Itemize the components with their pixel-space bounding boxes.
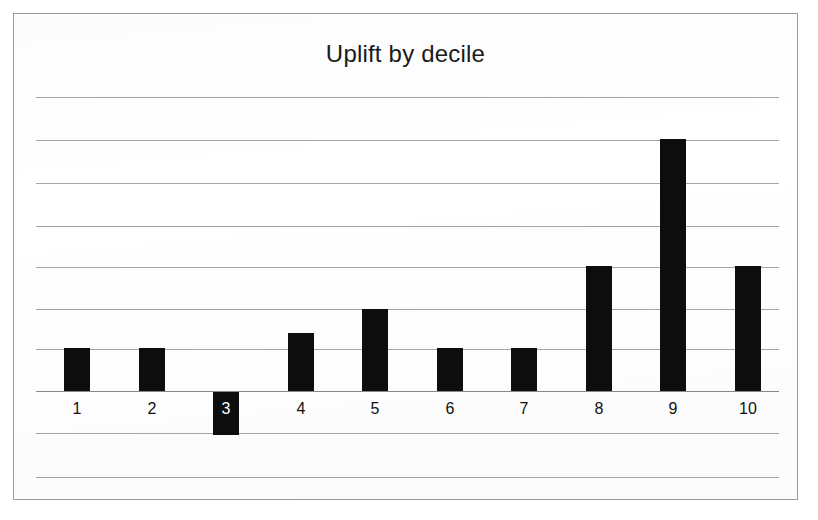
bar-decile-2[interactable] [139, 348, 165, 391]
chart-title: Uplift by decile [14, 40, 797, 68]
bar-decile-1[interactable] [64, 348, 90, 391]
bar-decile-6[interactable] [437, 348, 463, 391]
bar-decile-10[interactable] [735, 266, 761, 391]
x-tick-label-2: 2 [132, 401, 172, 417]
bar-decile-8[interactable] [586, 266, 612, 391]
x-tick-label-8: 8 [579, 401, 619, 417]
chart-frame: 1 2 3 4 5 6 7 8 9 10 Uplift by decile [13, 13, 798, 500]
screenshot-root: 1 2 3 4 5 6 7 8 9 10 Uplift by decile [0, 0, 818, 520]
plot-area [14, 14, 797, 499]
x-tick-label-10: 10 [728, 401, 768, 417]
x-tick-label-1: 1 [57, 401, 97, 417]
x-tick-label-3: 3 [206, 401, 246, 417]
x-tick-label-7: 7 [504, 401, 544, 417]
bar-decile-9[interactable] [660, 139, 686, 391]
bar-decile-5[interactable] [362, 309, 388, 391]
x-tick-label-4: 4 [281, 401, 321, 417]
bar-decile-7[interactable] [511, 348, 537, 391]
x-tick-label-6: 6 [430, 401, 470, 417]
x-tick-label-9: 9 [653, 401, 693, 417]
x-tick-label-5: 5 [355, 401, 395, 417]
bar-decile-4[interactable] [288, 333, 314, 391]
